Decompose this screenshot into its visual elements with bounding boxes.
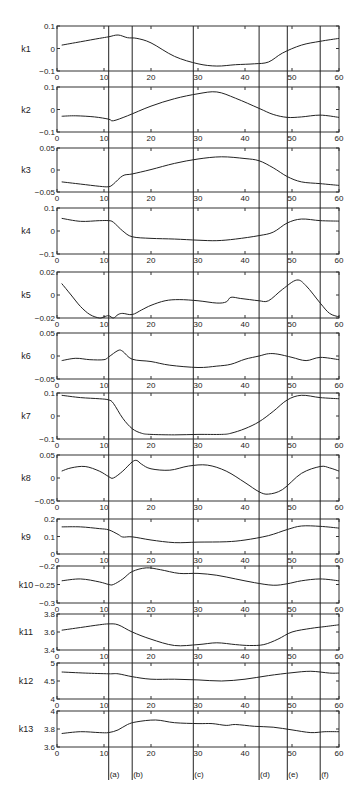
series-line-k4 — [62, 218, 339, 240]
y-tick-label: 0 — [51, 550, 56, 559]
x-tick-label: 60 — [335, 134, 344, 143]
y-tick-label: −0.1 — [39, 250, 55, 259]
x-tick-label: 0 — [55, 441, 60, 450]
x-tick-label: 40 — [241, 749, 250, 758]
x-tick-label: 10 — [100, 320, 109, 329]
series-line-k11 — [62, 624, 339, 646]
x-tick-label: 0 — [55, 320, 60, 329]
series-line-k7 — [62, 395, 339, 435]
y-tick-label: 3.6 — [44, 628, 56, 637]
x-tick-label: 20 — [147, 256, 156, 265]
x-tick-label: 0 — [55, 134, 60, 143]
subplot-k12: 010203040506044.55k12 — [19, 659, 344, 710]
x-tick-label: 60 — [335, 441, 344, 450]
y-tick-label: 3.8 — [44, 610, 56, 619]
y-tick-label: 0 — [51, 352, 56, 361]
marker-label: (c) — [194, 770, 204, 779]
x-tick-label: 20 — [147, 749, 156, 758]
x-tick-label: 60 — [335, 701, 344, 710]
x-tick-label: 40 — [241, 320, 250, 329]
x-tick-label: 30 — [194, 256, 203, 265]
y-tick-label: −0.05 — [35, 375, 56, 384]
x-tick-label: 20 — [147, 194, 156, 203]
y-tick-label: 0 — [51, 106, 56, 115]
x-tick-label: 40 — [241, 701, 250, 710]
x-tick-label: 0 — [55, 652, 60, 661]
x-tick-label: 20 — [147, 652, 156, 661]
x-tick-label: 50 — [288, 134, 297, 143]
subplot-k10: 0102030405060−0.3−0.25−0.2k10 — [19, 562, 344, 614]
y-axis-label: k4 — [21, 226, 31, 236]
x-tick-label: 10 — [100, 556, 109, 565]
x-tick-label: 60 — [335, 381, 344, 390]
x-tick-label: 60 — [335, 749, 344, 758]
y-axis-label: k13 — [19, 724, 34, 734]
x-tick-label: 10 — [100, 381, 109, 390]
y-tick-label: −0.05 — [35, 497, 56, 506]
x-tick-label: 10 — [100, 503, 109, 512]
y-tick-label: 4 — [51, 707, 56, 716]
x-tick-label: 0 — [55, 749, 60, 758]
x-tick-label: 60 — [335, 320, 344, 329]
x-tick-label: 30 — [194, 605, 203, 614]
subplot-k1: 0102030405060−0.100.1k1 — [21, 22, 344, 82]
subplot-k6: 0102030405060−0.0500.05k6 — [21, 329, 344, 390]
x-tick-label: 40 — [241, 381, 250, 390]
marker-label: (f) — [321, 770, 329, 779]
marker-label: (a) — [110, 770, 120, 779]
x-tick-label: 40 — [241, 73, 250, 82]
series-line-k9 — [62, 526, 339, 543]
series-line-k6 — [62, 350, 339, 368]
x-tick-label: 60 — [335, 73, 344, 82]
x-tick-label: 60 — [335, 652, 344, 661]
y-tick-label: 4 — [51, 695, 56, 704]
stacked-line-chart: 0102030405060−0.100.1k10102030405060−0.1… — [0, 0, 361, 802]
x-tick-label: 10 — [100, 194, 109, 203]
x-tick-label: 30 — [194, 749, 203, 758]
x-tick-label: 10 — [100, 134, 109, 143]
x-tick-label: 30 — [194, 73, 203, 82]
subplot-k2: 0102030405060−0.100.1k2 — [21, 83, 344, 143]
x-tick-label: 50 — [288, 320, 297, 329]
x-tick-label: 10 — [100, 605, 109, 614]
y-axis-label: k11 — [19, 627, 33, 637]
y-axis-label: k3 — [21, 165, 31, 175]
y-tick-label: 0 — [51, 166, 56, 175]
series-line-k10 — [62, 568, 339, 585]
x-tick-label: 30 — [194, 381, 203, 390]
y-axis-label: k9 — [21, 532, 31, 542]
x-tick-label: 50 — [288, 701, 297, 710]
x-tick-label: 50 — [288, 441, 297, 450]
y-tick-label: 0 — [51, 412, 56, 421]
y-tick-label: 4.5 — [44, 677, 56, 686]
x-tick-label: 40 — [241, 605, 250, 614]
y-tick-label: 3.6 — [44, 743, 56, 752]
x-tick-label: 0 — [55, 381, 60, 390]
y-axis-label: k1 — [21, 44, 31, 54]
x-tick-label: 0 — [55, 556, 60, 565]
plot-frame — [57, 455, 339, 501]
y-tick-label: −0.1 — [39, 435, 55, 444]
subplot-k8: 0102030405060−0.0500.05k8 — [21, 451, 344, 512]
y-tick-label: 0 — [51, 291, 56, 300]
y-tick-label: 0 — [51, 474, 56, 483]
y-tick-label: 0 — [51, 227, 56, 236]
y-axis-label: k12 — [19, 676, 34, 686]
subplot-k3: 0102030405060−0.0500.05k3 — [21, 144, 344, 203]
y-tick-label: 0.05 — [39, 451, 55, 460]
x-tick-label: 40 — [241, 652, 250, 661]
y-tick-label: 0.2 — [44, 515, 56, 524]
subplot-k5: 0102030405060−0.0200.02k5 — [21, 268, 344, 329]
y-tick-label: 0.1 — [44, 22, 56, 31]
x-tick-label: 10 — [100, 749, 109, 758]
plot-frame — [57, 711, 339, 747]
x-tick-label: 50 — [288, 556, 297, 565]
y-tick-label: 0.1 — [44, 533, 56, 542]
y-tick-label: −0.05 — [35, 188, 56, 197]
x-tick-label: 50 — [288, 381, 297, 390]
y-tick-label: 0.02 — [39, 268, 55, 277]
x-tick-label: 50 — [288, 503, 297, 512]
x-tick-label: 10 — [100, 73, 109, 82]
subplot-k9: 010203040506000.10.2k9 — [21, 515, 344, 565]
marker-label: (d) — [260, 770, 270, 779]
